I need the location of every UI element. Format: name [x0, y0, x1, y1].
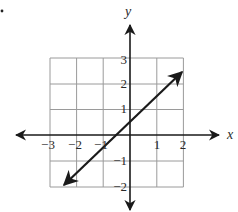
x-tick-label: 1 — [154, 137, 161, 152]
y-tick-label: 2 — [121, 76, 128, 91]
x-tick-label: −2 — [68, 137, 82, 152]
coordinate-plane: y x −3 −2 −1 1 2 3 2 1 −1 −2 — [0, 0, 238, 212]
x-tick-label: 2 — [180, 137, 187, 152]
x-tick-label: −3 — [41, 137, 55, 152]
x-axis-label: x — [226, 127, 234, 142]
y-axis-label: y — [123, 4, 132, 19]
y-tick-label: −1 — [113, 153, 127, 168]
problem-marker-dot — [1, 10, 4, 13]
x-tick-label: −1 — [94, 137, 108, 152]
y-tick-label: −2 — [113, 179, 127, 194]
y-tick-label: 3 — [121, 52, 128, 67]
y-tick-label: 1 — [121, 101, 128, 116]
